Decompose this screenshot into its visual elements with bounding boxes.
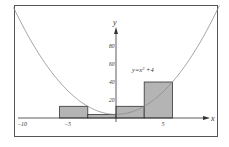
bar-0 [60, 106, 88, 118]
bar-3 [144, 82, 172, 118]
y-tick-label: 80 [109, 43, 115, 49]
x-tick-label: −5 [64, 121, 71, 127]
y-tick-label: 20 [109, 97, 115, 103]
x-tick-label: 5 [162, 121, 165, 127]
x-axis-label: x [210, 114, 215, 123]
y-tick-label: 40 [109, 79, 115, 85]
y-axis-label: y [112, 18, 117, 27]
x-tick-label: −10 [17, 121, 27, 127]
bar-1 [88, 114, 116, 118]
riemann-sum-chart: x y −10−55 20406080 y=x2 +4 [0, 0, 229, 147]
y-tick-label: 60 [109, 61, 115, 67]
